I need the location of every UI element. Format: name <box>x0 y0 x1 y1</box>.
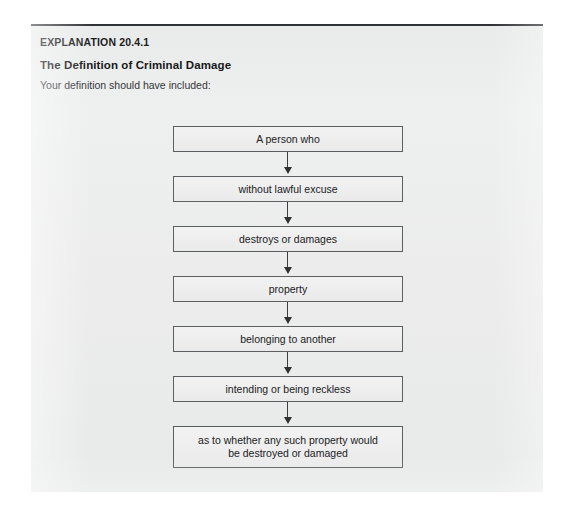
explanation-header: EXPLANATION 20.4.1 The Definition of Cri… <box>40 36 520 92</box>
down-arrow-icon <box>284 317 292 324</box>
flow-node-7: as to whether any such property wouldbe … <box>173 426 403 468</box>
scanned-page-card: EXPLANATION 20.4.1 The Definition of Cri… <box>31 24 543 492</box>
flow-connector-3 <box>173 252 403 276</box>
flow-node-3: destroys or damages <box>173 226 403 252</box>
flow-node-6: intending or being reckless <box>173 376 403 402</box>
flow-connector-2 <box>173 202 403 226</box>
flow-node-2: without lawful excuse <box>173 176 403 202</box>
flow-node-1: A person who <box>173 126 403 152</box>
flow-connector-6 <box>173 402 403 426</box>
down-arrow-icon <box>284 267 292 274</box>
down-arrow-icon <box>284 167 292 174</box>
flow-node-label: destroys or damages <box>239 233 337 246</box>
flow-node-4: property <box>173 276 403 302</box>
flow-node-label: as to whether any such property wouldbe … <box>198 434 378 460</box>
page-top-rule <box>31 24 543 26</box>
down-arrow-icon <box>284 217 292 224</box>
flow-node-label-line1: as to whether any such property would <box>198 434 378 446</box>
criminal-damage-flowchart: A person who without lawful excuse destr… <box>173 126 403 468</box>
lead-text: Your definition should have included: <box>40 79 520 92</box>
flow-node-label: A person who <box>256 133 320 146</box>
down-arrow-icon <box>284 417 292 424</box>
flow-node-label: intending or being reckless <box>226 383 351 396</box>
flow-node-label: belonging to another <box>240 333 336 346</box>
flow-connector-5 <box>173 352 403 376</box>
down-arrow-icon <box>284 367 292 374</box>
flow-node-label: without lawful excuse <box>238 183 337 196</box>
flow-node-5: belonging to another <box>173 326 403 352</box>
flow-node-label-line2: be destroyed or damaged <box>228 447 348 459</box>
flow-node-label: property <box>269 283 308 296</box>
page-title: The Definition of Criminal Damage <box>40 58 520 72</box>
explanation-number: EXPLANATION 20.4.1 <box>40 36 520 49</box>
flow-connector-1 <box>173 152 403 176</box>
flow-connector-4 <box>173 302 403 326</box>
